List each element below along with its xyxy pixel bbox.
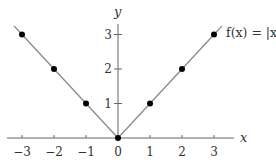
data-point: [147, 101, 153, 107]
y-axis-label: y: [113, 4, 122, 19]
data-point: [115, 135, 121, 141]
data-point: [83, 101, 89, 107]
data-point: [211, 32, 217, 38]
y-ticks: 123: [104, 28, 122, 111]
data-point: [19, 32, 25, 38]
function-label: f(x) = |x|: [226, 25, 276, 40]
x-tick-label: 1: [146, 145, 154, 159]
x-tick-label: −3: [13, 145, 31, 159]
x-tick-label: 2: [178, 145, 186, 159]
data-point: [51, 66, 57, 72]
abs-value-graph: −3−2−10123 123 x y f(x) = |x|: [0, 0, 276, 168]
y-tick-label: 2: [104, 62, 112, 76]
y-tick-label: 3: [104, 28, 112, 42]
data-point: [179, 66, 185, 72]
x-tick-label: 3: [210, 145, 218, 159]
x-tick-label: −1: [77, 145, 95, 159]
x-tick-label: −2: [45, 145, 63, 159]
y-tick-label: 1: [104, 97, 112, 111]
x-axis-label: x: [240, 130, 248, 145]
x-tick-label: 0: [114, 145, 122, 159]
